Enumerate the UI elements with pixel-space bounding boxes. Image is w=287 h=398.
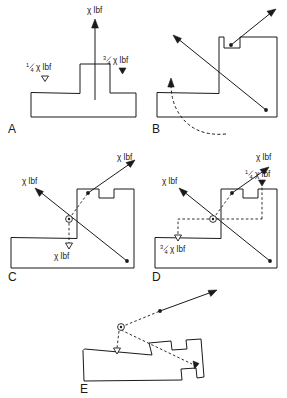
panel-e-equivalent-point-core [120, 326, 122, 328]
panel-e-transfer-line-lower [121, 330, 192, 364]
panel-e-body-outline [83, 339, 204, 381]
panel-e-transfer-line-upper [121, 311, 160, 327]
panel-d-three-quarter-numerator: 3 [160, 244, 163, 250]
panel-a-quarter-unit: χ lbf [36, 63, 52, 72]
panel-d-upper-right-force-label: χ lbf [256, 153, 272, 162]
panel-d-quarter-numerator: 1 [245, 169, 248, 175]
panel-a-three-quarter-denominator: 4 [108, 60, 111, 66]
panel-c-lower-force-label: χ lbf [54, 252, 70, 261]
panel-e-down-force-marker [114, 348, 121, 354]
panel-c-equivalent-point-core [68, 218, 70, 220]
panel-d-body-outline [155, 189, 277, 268]
panel-e-upper-arrow-head [208, 290, 217, 296]
panel-e-upper-arrow-shaft [160, 292, 212, 311]
panel-d-equivalent-point-core [212, 218, 214, 220]
panel-a-letter: A [8, 122, 16, 136]
panel-c-lower-arrow-head [35, 188, 43, 196]
panel-c-body-outline [11, 189, 134, 268]
panel-d-transfer-line [213, 193, 232, 219]
panel-b-couple-arrow-head [168, 78, 174, 87]
figure-root: χ lbf 1 4 χ lbf 3 4 χ lbf A [0, 0, 287, 398]
panel-d-three-quarter-construction-line [178, 219, 209, 235]
panel-a-quarter-force-marker [42, 76, 49, 82]
panel-d-three-quarter-force-label: 3 4 χ lbf [160, 244, 186, 255]
panel-b-upper-arrow-shaft [231, 12, 272, 45]
panel-d-upper-left-force-label: χ lbf [162, 177, 178, 186]
panel-d-quarter-force-label: 1 4 χ lbf [245, 169, 271, 180]
panel-d-lower-arrow-shaft [183, 191, 270, 261]
panel-a-top-force-label: χ lbf [87, 6, 103, 15]
panel-a-quarter-numerator: 1 [26, 62, 29, 68]
panel-a-resultant-arrow-head [92, 19, 99, 28]
panel-d-quarter-denominator: 4 [250, 174, 253, 180]
panel-a-three-quarter-force-label: 3 4 χ lbf [103, 55, 129, 66]
panel-a-quarter-denominator: 4 [31, 67, 34, 73]
panel-e-letter: E [80, 382, 88, 396]
panel-b-lower-arrow-head [173, 35, 181, 43]
panel-e-down-force-leader [117, 331, 119, 348]
panel-a-three-quarter-force-marker [119, 68, 126, 74]
panel-d-letter: D [152, 270, 161, 284]
panel-c-lower-arrow-shaft [39, 191, 127, 261]
panel-d-three-quarter-denominator: 4 [165, 249, 168, 255]
panel-d-quarter-force-marker [259, 180, 266, 186]
panel-b-letter: B [152, 122, 160, 136]
panel-c-down-force-marker [66, 243, 73, 249]
panel-c-upper-left-force-label: χ lbf [22, 177, 38, 186]
panel-d-quarter-unit: χ lbf [255, 170, 271, 179]
panel-b-lower-arrow-shaft [177, 38, 266, 110]
panel-b-body-outline [157, 37, 277, 117]
panel-d-lower-arrow-head [179, 188, 187, 196]
panel-d: χ lbf χ lbf 1 4 χ lbf 3 4 χ lbf D [152, 153, 277, 284]
panel-a-three-quarter-unit: χ lbf [113, 56, 129, 65]
panel-b: B [152, 9, 277, 136]
panel-a-quarter-force-label: 1 4 χ lbf [26, 62, 52, 73]
panel-e: E [80, 290, 217, 396]
panel-a: χ lbf 1 4 χ lbf 3 4 χ lbf A [8, 6, 136, 136]
panel-a-three-quarter-numerator: 3 [103, 55, 106, 61]
panel-d-three-quarter-unit: χ lbf [170, 245, 186, 254]
panel-c-letter: C [8, 270, 17, 284]
panel-c-upper-right-force-label: χ lbf [117, 153, 133, 162]
panel-c-transfer-line [69, 193, 88, 219]
panel-b-couple-curve [171, 84, 226, 134]
panel-c: χ lbf χ lbf χ lbf C [8, 153, 135, 284]
figure-canvas: χ lbf 1 4 χ lbf 3 4 χ lbf A [0, 0, 287, 398]
